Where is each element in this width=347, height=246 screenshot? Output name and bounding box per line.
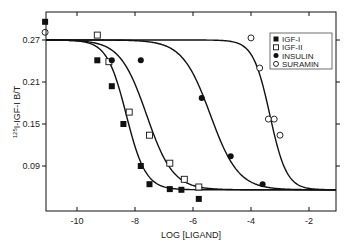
data-point xyxy=(248,35,254,41)
y-tick-label: 0.15 xyxy=(22,119,40,129)
data-point xyxy=(274,53,279,58)
x-tick-label: -2 xyxy=(305,216,313,226)
data-point xyxy=(260,181,266,187)
data-point xyxy=(109,83,115,89)
x-axis-label: LOG [LIGAND] xyxy=(161,230,221,240)
data-point xyxy=(147,132,153,138)
y-tick-label: 0.09 xyxy=(22,161,40,171)
legend-item: SURAMIN xyxy=(282,60,319,69)
data-point xyxy=(257,65,263,71)
data-point xyxy=(167,186,173,192)
x-tick-label: -4 xyxy=(247,216,255,226)
data-point xyxy=(265,116,271,122)
data-point xyxy=(109,57,115,63)
data-point xyxy=(196,196,202,202)
x-tick-label: -8 xyxy=(131,216,139,226)
data-point xyxy=(199,95,205,101)
legend: IGF-IIGF-IIINSULINSURAMIN xyxy=(270,33,332,69)
x-tick-label: -6 xyxy=(189,216,197,226)
data-point xyxy=(167,160,173,166)
x-tick-label: -10 xyxy=(70,216,83,226)
data-point xyxy=(196,184,202,190)
y-tick-label: 0.21 xyxy=(22,77,40,87)
data-point xyxy=(42,19,48,25)
chart: -10-8-6-4-2 0.270.210.150.09 LOG [LIGAND… xyxy=(0,0,347,246)
y-tick-label: 0.27 xyxy=(22,35,40,45)
data-point xyxy=(178,187,184,193)
data-point xyxy=(274,61,279,66)
data-point xyxy=(274,37,279,42)
svg-text:125I-IGF-I B/T: 125I-IGF-I B/T xyxy=(12,85,22,138)
y-axis-label: 125I-IGF-I B/T xyxy=(12,85,22,138)
data-point xyxy=(271,116,277,122)
data-point xyxy=(120,121,126,127)
data-point xyxy=(138,57,144,63)
data-point xyxy=(42,29,48,35)
data-point xyxy=(94,57,100,63)
data-point xyxy=(94,32,100,38)
data-point xyxy=(277,132,283,138)
data-point xyxy=(126,109,132,115)
data-point xyxy=(181,176,187,182)
data-point xyxy=(147,181,153,187)
data-point xyxy=(228,153,234,159)
data-point xyxy=(274,45,279,50)
data-point xyxy=(138,163,144,169)
